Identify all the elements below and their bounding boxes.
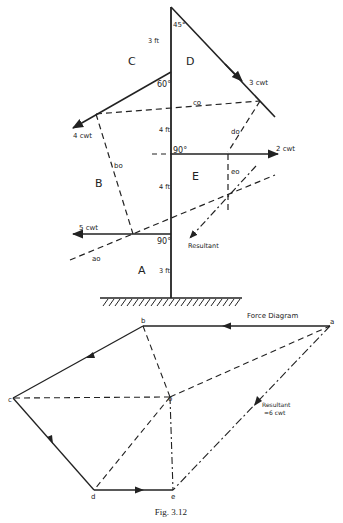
ray-oa <box>170 326 330 397</box>
arrowhead-cd <box>47 435 53 444</box>
point-e: e <box>171 493 175 501</box>
vector-bc <box>13 326 143 398</box>
point-o: o <box>168 395 172 403</box>
label-eo: eo <box>231 168 240 176</box>
angle-60: 60° <box>157 80 171 89</box>
distance-upper-mid: 4 ft <box>159 126 170 134</box>
force-diagram-title: Force Diagram <box>247 312 298 320</box>
force-3cwt-arrow <box>225 64 242 81</box>
label-ao: ao <box>92 255 101 263</box>
ray-oe <box>170 397 173 490</box>
force-diagram: Force Diagram a b c d e o Resultant =6 c… <box>8 312 334 501</box>
arrowhead-de <box>135 487 144 494</box>
distance-bottom: 3 ft <box>159 267 170 275</box>
resultant-ae <box>173 326 330 490</box>
distance-top: 3 ft <box>148 37 159 45</box>
figure-caption: Fig. 3.12 <box>155 507 187 517</box>
fig-3-12-diagram: C D B E A 3 ft 4 ft 4 ft 3 ft 45° 60° 90… <box>0 0 343 523</box>
label-2cwt: 2 cwt <box>276 145 295 153</box>
point-a: a <box>330 318 334 326</box>
angle-45: 45° <box>173 21 185 29</box>
space-diagram: C D B E A 3 ft 4 ft 4 ft 3 ft 45° 60° 90… <box>70 7 295 306</box>
ground-hatching <box>100 298 242 306</box>
resultant-label-line1: Resultant <box>262 401 291 408</box>
resultant-label-line2: =6 cwt <box>264 409 286 416</box>
label-3cwt: 3 cwt <box>249 79 268 87</box>
region-a: A <box>138 264 146 277</box>
label-5cwt: 5 cwt <box>79 224 98 232</box>
point-b: b <box>141 317 146 325</box>
distance-lower-mid: 4 ft <box>159 183 170 191</box>
resultant-line <box>190 166 256 238</box>
arrowhead-ab <box>222 323 231 330</box>
link-co <box>96 101 260 114</box>
angle-90-upper: 90° <box>173 146 187 155</box>
label-do: do <box>231 128 240 136</box>
angle-90-lower: 90° <box>157 237 171 246</box>
ray-oc <box>13 397 170 398</box>
label-co: co <box>193 99 201 107</box>
link-bo <box>96 114 133 234</box>
point-c: c <box>8 396 12 404</box>
label-resultant: Resultant <box>188 242 219 250</box>
vector-cd <box>13 398 94 490</box>
point-d: d <box>91 493 95 501</box>
region-e: E <box>192 170 199 183</box>
label-bo: bo <box>114 162 123 170</box>
region-b: B <box>95 177 103 190</box>
label-4cwt: 4 cwt <box>73 132 92 140</box>
link-do <box>228 101 260 152</box>
region-d: D <box>186 55 194 68</box>
ray-ob <box>143 326 170 397</box>
ray-od <box>94 397 170 490</box>
region-c: C <box>128 55 136 68</box>
